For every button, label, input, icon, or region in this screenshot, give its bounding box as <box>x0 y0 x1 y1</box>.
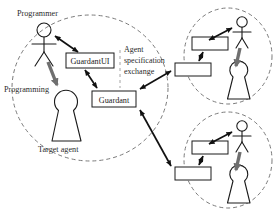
keyhole-agent-icon-remote-top <box>228 61 251 99</box>
label-target-agent: Target agent <box>38 145 79 154</box>
box-label-guardant: Guardant <box>99 96 130 105</box>
double-arrow-icon-remote-top-boxes <box>199 52 203 61</box>
group-boundary-right-bottom-site <box>184 112 272 208</box>
diagram-canvas: Programmer Programming Target agent Agen… <box>0 0 275 215</box>
box-label-guardant-ui: GuardantUI <box>70 57 109 66</box>
stick-figure-icon-remote-bottom <box>233 121 251 152</box>
label-programming: Programming <box>4 85 49 94</box>
box-remote-bottom-lower[interactable] <box>175 167 211 180</box>
double-arrow-icon-guardantui-guardant <box>85 70 97 88</box>
stick-figure-icon-programmer <box>32 23 56 66</box>
keyhole-agent-icon-target <box>52 90 81 141</box>
double-arrow-icon-remote-bottom-boxes <box>199 156 203 165</box>
double-arrow-icon-programmer-guardantui <box>55 36 78 52</box>
annotation-line-1: Agent <box>124 45 144 54</box>
annotation-line-2: specification <box>124 56 165 65</box>
group-boundary-right-top-site <box>184 8 272 104</box>
diagram-svg: Programmer Programming Target agent Agen… <box>0 0 275 215</box>
label-programmer: Programmer <box>17 9 58 18</box>
double-arrow-icon-guardant-remote-bottom <box>140 110 171 166</box>
annotation-line-3: exchange <box>124 67 155 76</box>
keyhole-agent-icon-remote-bottom <box>228 165 251 203</box>
box-remote-top-lower[interactable] <box>175 63 211 76</box>
stick-figure-icon-remote-top <box>233 17 251 48</box>
